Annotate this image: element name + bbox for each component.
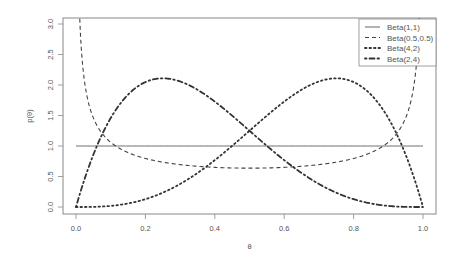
x-tick-label: 0.8	[348, 224, 358, 233]
legend: Beta(1,1)Beta(0.5,0.5)Beta(4,2)Beta(2,4)	[359, 19, 436, 66]
y-tick-label: 1.0	[46, 141, 55, 151]
legend-label: Beta(2,4)	[387, 55, 420, 64]
y-tick-label: 3.0	[46, 19, 55, 29]
curve-beta-2-4	[76, 78, 423, 207]
y-tick-label: 2.5	[46, 49, 55, 59]
y-axis: 0.00.51.01.52.02.53.0	[46, 19, 63, 212]
legend-label: Beta(1,1)	[387, 23, 420, 32]
legend-label: Beta(4,2)	[387, 44, 420, 53]
x-axis-label: θ	[247, 242, 251, 251]
x-tick-label: 0.2	[140, 224, 150, 233]
y-tick-label: 0.5	[46, 171, 55, 181]
legend-label: Beta(0.5,0.5)	[387, 34, 434, 43]
x-tick-label: 0.6	[279, 224, 289, 233]
curve-beta-4-2	[76, 78, 423, 207]
x-tick-label: 1.0	[418, 224, 428, 233]
y-tick-label: 2.0	[46, 80, 55, 90]
x-tick-label: 0.0	[71, 224, 81, 233]
x-tick-label: 0.4	[210, 224, 220, 233]
y-axis-label: p(θ)	[25, 109, 34, 123]
y-tick-label: 1.5	[46, 110, 55, 120]
y-tick-label: 0.0	[46, 202, 55, 212]
x-axis: 0.00.20.40.60.81.0	[71, 214, 428, 233]
beta-density-chart: 0.00.20.40.60.81.0 0.00.51.01.52.02.53.0…	[0, 0, 461, 263]
